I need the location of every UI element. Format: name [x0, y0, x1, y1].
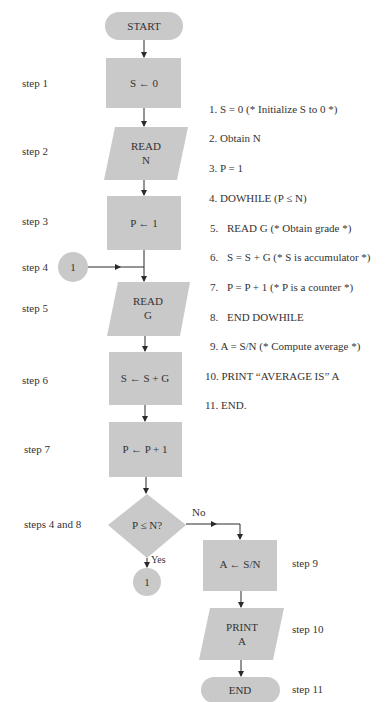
connector-circle-out: 1 — [133, 568, 161, 596]
process-box-s6: S ← S + G — [109, 352, 182, 405]
pseudocode-line: 7.P = P + 1 (* P is a counter *) — [210, 281, 353, 293]
io-text-line1: READ — [133, 295, 163, 307]
step-label: steps 4 and 8 — [24, 518, 81, 530]
process-text: P ← P + 1 — [122, 443, 167, 455]
process-text: S ← S + G — [121, 372, 169, 384]
step-label: step 11 — [292, 683, 323, 695]
io-text-line2: N — [142, 154, 150, 166]
pseudocode-line: 3. P = 1 — [209, 162, 243, 174]
start-terminal: START — [105, 12, 183, 40]
yes-label: Yes — [151, 554, 166, 565]
end-terminal: END — [201, 677, 280, 702]
step-label: step 5 — [22, 302, 48, 314]
process-text: P ← 1 — [130, 217, 158, 229]
io-text-line2: G — [144, 309, 152, 321]
end-label: END — [229, 684, 252, 696]
decision-diamond: P ≤ N? — [108, 494, 186, 558]
pseudocode-line: 11. END. — [205, 399, 246, 411]
step-label: step 3 — [22, 215, 48, 227]
process-text: S ← 0 — [130, 77, 159, 89]
io-parallelogram-s10: PRINT A — [199, 608, 284, 660]
process-box-s7: P ← P + 1 — [109, 422, 182, 477]
step-label: step 1 — [22, 77, 48, 89]
process-box-s3: P ← 1 — [107, 196, 181, 250]
pseudocode-line: 1. S = 0 (* Initialize S to 0 *) — [209, 103, 337, 115]
pseudocode-line: 4. DOWHILE (P ≤ N) — [209, 192, 307, 204]
connector-circle-in: 1 — [58, 252, 88, 282]
decision-text: P ≤ N? — [132, 519, 162, 531]
pseudocode-line: 9. A = S/N (* Compute average *) — [210, 340, 360, 352]
process-text: A ← S/N — [220, 558, 261, 570]
connector-label: 1 — [70, 261, 76, 273]
connector-label: 1 — [144, 576, 150, 588]
process-box-s1: S ← 0 — [106, 58, 181, 108]
step-label: step 6 — [22, 374, 48, 386]
io-text-line2: A — [238, 635, 246, 647]
no-branch-line — [216, 524, 240, 539]
step-label: step 4 — [22, 261, 48, 273]
step-label: step 2 — [22, 145, 48, 157]
io-parallelogram-s5: READ G — [107, 282, 190, 336]
pseudocode-line: 10. PRINT “AVERAGE IS” A — [205, 370, 339, 382]
io-text-line1: PRINT — [226, 621, 258, 633]
pseudocode-line: 8.END DOWHILE — [210, 311, 304, 323]
no-label: No — [192, 506, 206, 518]
pseudocode-line: 5.READ G (* Obtain grade *) — [210, 222, 351, 234]
process-box-s9: A ← S/N — [203, 540, 277, 591]
step-label: step 9 — [292, 557, 318, 569]
pseudocode-line: 6.S = S + G (* S is accumulator *) — [210, 251, 370, 263]
step-label: step 10 — [292, 623, 323, 635]
pseudocode-line: 2. Obtain N — [209, 132, 261, 144]
io-parallelogram-s2: READ N — [104, 127, 188, 180]
start-label: START — [127, 20, 161, 32]
io-text-line1: READ — [131, 140, 161, 152]
step-label: step 7 — [24, 443, 50, 455]
